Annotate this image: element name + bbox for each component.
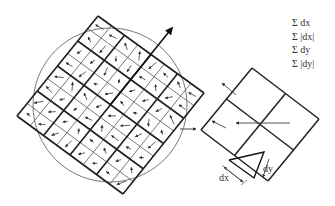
- gradient-vector: [60, 99, 65, 100]
- gradient-vector: [125, 43, 127, 50]
- legend-sum-abs-dx: Σ |dx|: [292, 30, 314, 44]
- gradient-vector: [112, 136, 119, 141]
- gradient-vector: [142, 100, 148, 101]
- label-dx: dx: [219, 172, 229, 183]
- legend-sum-dy: Σ dy: [292, 43, 314, 57]
- gradient-vector: [127, 65, 131, 71]
- gradient-vector: [189, 92, 196, 96]
- diagram: Σ dx Σ |dx| Σ dy Σ |dy| dx dy: [0, 0, 335, 206]
- gradient-vector: [131, 168, 132, 173]
- gradient-vector: [170, 115, 174, 124]
- gradient-vector: [55, 77, 64, 78]
- gradient-vector: [161, 130, 162, 135]
- gradient-vector: [179, 105, 186, 110]
- detail-grid-line: [252, 68, 319, 119]
- detail-grid-line: [235, 94, 286, 156]
- gradient-vector: [104, 148, 106, 154]
- gradient-vector: [116, 160, 121, 162]
- gradient-vector: [139, 76, 145, 79]
- label-dy: dy: [263, 163, 273, 174]
- gradient-vector: [88, 37, 91, 42]
- detail-gradient-vector: [212, 121, 226, 128]
- gradient-vector: [34, 101, 44, 103]
- gradient-vector: [109, 35, 116, 39]
- gradient-vector: [94, 83, 98, 84]
- gradient-vector: [129, 90, 135, 92]
- gradient-vector: [77, 51, 82, 54]
- gradient-vector: [148, 142, 156, 148]
- gradient-vector: [79, 72, 86, 77]
- gradient-vector: [121, 101, 124, 105]
- gradient-vector: [90, 60, 95, 63]
- gradient-vector: [163, 73, 168, 77]
- legend-sum-abs-dy: Σ |dy|: [292, 57, 314, 71]
- major-grid-line: [97, 74, 178, 175]
- gradient-vector: [65, 141, 71, 147]
- gradient-vector: [27, 113, 31, 116]
- descriptor-figure: [0, 0, 335, 206]
- detail-grid-line: [268, 119, 319, 181]
- gradient-vector: [148, 119, 149, 126]
- gradient-vector: [85, 117, 92, 120]
- gradient-vector: [178, 82, 181, 88]
- gradient-vector: [156, 109, 162, 112]
- gradient-vector: [135, 134, 142, 137]
- legend-sum-dx: Σ dx: [292, 16, 314, 30]
- gradient-vector: [90, 139, 94, 142]
- gradient-vector: [78, 153, 85, 155]
- gradient-vector: [133, 113, 137, 114]
- gradient-vector: [66, 63, 72, 67]
- gradient-vector: [84, 93, 87, 100]
- gradient-vector: [119, 79, 120, 83]
- gradient-vector: [96, 105, 102, 107]
- dx-tick: [222, 165, 226, 169]
- gradient-vector: [139, 52, 140, 61]
- gradient-vector: [74, 108, 77, 111]
- gradient-vector: [106, 171, 110, 174]
- gradient-vector: [78, 129, 79, 134]
- gradient-vector: [72, 82, 73, 91]
- legend: Σ dx Σ |dx| Σ dy Σ |dy|: [292, 16, 314, 70]
- gradient-vector: [104, 67, 107, 75]
- gradient-vector: [149, 62, 157, 68]
- gradient-vector: [63, 121, 68, 122]
- gradient-vector: [126, 146, 131, 149]
- gradient-vector: [52, 133, 59, 135]
- gradient-vector: [105, 93, 113, 94]
- major-grid-line: [123, 93, 204, 194]
- gradient-vector: [165, 97, 173, 99]
- gradient-vector: [100, 46, 106, 53]
- gradient-vector: [46, 86, 52, 92]
